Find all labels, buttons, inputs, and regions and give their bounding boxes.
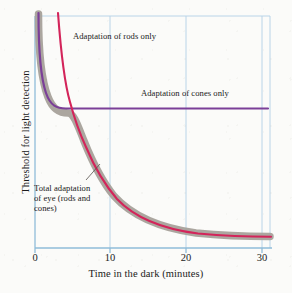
chart-plot-area (0, 0, 292, 293)
annotation-total-line-1: Total adaptation (34, 183, 120, 193)
y-axis-label-wrapper: Threshold for light detection (15, 27, 31, 237)
y-axis-label: Threshold for light detection (20, 70, 31, 193)
annotation-total-line-2: of eye (rods and (34, 193, 120, 203)
annotation-total-adaptation: Total adaptation of eye (rods and cones) (34, 183, 120, 213)
annotation-cones-only: Adaptation of cones only (141, 88, 229, 98)
x-tick-label-20: 20 (174, 252, 198, 263)
x-axis-label: Time in the dark (minutes) (0, 268, 292, 279)
annotation-rods-only: Adaptation of rods only (73, 31, 156, 41)
x-tick-label-30: 30 (250, 252, 274, 263)
x-tick-label-0: 0 (23, 252, 47, 263)
dark-adaptation-chart: 0 10 20 30 Time in the dark (minutes) Th… (0, 0, 292, 293)
annotation-total-line-3: cones) (34, 203, 120, 213)
axis-ticks (35, 248, 262, 253)
x-tick-label-10: 10 (98, 252, 122, 263)
